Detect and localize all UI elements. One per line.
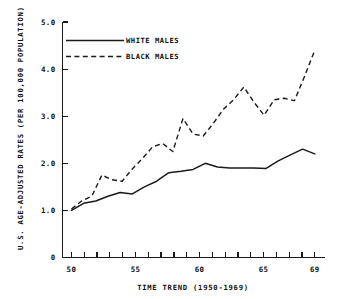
y-tick-label: 2.0: [41, 159, 56, 168]
y-tick-label: 0: [51, 253, 56, 262]
line-chart: 01.02.03.04.05.0 5055606569 U.S. AGE-ADJ…: [0, 0, 338, 299]
chart-legend: WHITE MALES BLACK MALES: [66, 36, 179, 61]
chart-series-group: [71, 50, 314, 210]
x-tick-label: 50: [67, 265, 77, 274]
y-axis-ticks: 01.02.03.04.05.0: [41, 18, 68, 262]
chart-figure: 01.02.03.04.05.0 5055606569 U.S. AGE-ADJ…: [0, 0, 338, 299]
series-line-white-males: [71, 149, 314, 210]
series-line-black-males: [71, 50, 314, 209]
y-axis-title: U.S. AGE-ADJUSTED RATES (PER 100,000 POP…: [16, 6, 25, 250]
y-tick-label: 3.0: [41, 112, 56, 121]
x-axis-title: TIME TREND (1950-1969): [137, 283, 249, 292]
legend-label-white-males: WHITE MALES: [126, 36, 179, 45]
y-tick-label: 1.0: [41, 206, 56, 215]
y-tick-label: 4.0: [41, 65, 56, 74]
x-tick-label: 60: [195, 265, 205, 274]
x-tick-label: 65: [259, 265, 269, 274]
x-tick-label: 55: [131, 265, 141, 274]
chart-axes: [63, 22, 326, 258]
legend-label-black-males: BLACK MALES: [126, 52, 179, 61]
x-axis-ticks: 5055606569: [67, 252, 320, 274]
y-tick-label: 5.0: [41, 18, 56, 27]
x-tick-label: 69: [310, 265, 320, 274]
